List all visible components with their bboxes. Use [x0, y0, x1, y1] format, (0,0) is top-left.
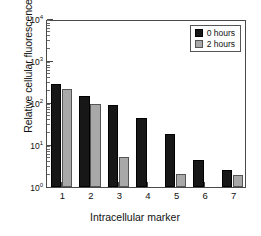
legend-item-0-hours: 0 hours [195, 29, 235, 38]
bar-1-series-1 [62, 89, 73, 187]
bar-2-series-0 [79, 96, 90, 187]
y-tick-minor [47, 62, 50, 63]
y-tick-minor [47, 65, 50, 66]
x-tick: 6 [204, 182, 205, 187]
bar-5-series-1 [176, 174, 187, 187]
bar-3-series-1 [119, 157, 130, 187]
y-tick-minor [47, 40, 50, 41]
legend-label-2-hours: 2 hours [207, 40, 235, 49]
x-tick-label: 1 [60, 190, 65, 201]
x-axis-title: Intracellular marker [46, 211, 224, 223]
x-tick-label: 3 [117, 190, 122, 201]
bar-4-series-0 [136, 118, 147, 187]
y-tick-minor [47, 70, 50, 71]
x-tick-label: 6 [202, 190, 207, 201]
chart-legend: 0 hours 2 hours [190, 25, 241, 52]
x-tick-label: 2 [88, 190, 93, 201]
bar-1-series-0 [51, 84, 62, 187]
y-tick-label: 104 [30, 15, 43, 24]
chart-figure: Relative cellular fluorescence 100101102… [0, 0, 261, 236]
bar-7-series-0 [222, 170, 233, 187]
legend-item-2-hours: 2 hours [195, 40, 235, 49]
y-tick-minor [47, 25, 50, 26]
y-tick-minor [47, 23, 50, 24]
y-tick-label: 102 [30, 99, 43, 108]
bar-6-series-0 [193, 160, 204, 187]
legend-swatch-icon-0-hours [195, 29, 203, 37]
y-tick-minor [47, 20, 50, 21]
y-tick-minor [47, 35, 50, 36]
y-tick-minor [47, 28, 50, 29]
y-tick-minor [47, 48, 50, 49]
y-tick-label: 103 [30, 57, 43, 66]
y-tick-minor [47, 73, 50, 74]
x-tick: 4 [147, 182, 148, 187]
y-tick-major: 104 [47, 19, 53, 20]
y-tick-major: 103 [47, 61, 53, 62]
bar-2-series-1 [90, 104, 101, 187]
bar-3-series-0 [108, 105, 119, 187]
y-tick-minor [47, 67, 50, 68]
x-tick-label: 5 [174, 190, 179, 201]
y-tick-label: 100 [30, 183, 43, 192]
bar-5-series-0 [165, 134, 176, 187]
y-tick-minor [47, 31, 50, 32]
x-tick-label: 4 [145, 190, 150, 201]
bar-7-series-1 [233, 175, 244, 187]
legend-swatch-icon-2-hours [195, 40, 203, 48]
plot-area: 100101102103104 1234567 0 hours 2 hours [46, 20, 246, 188]
legend-label-0-hours: 0 hours [207, 29, 235, 38]
x-tick-label: 7 [231, 190, 236, 201]
y-tick-minor [47, 77, 50, 78]
y-tick-label: 101 [30, 141, 43, 150]
